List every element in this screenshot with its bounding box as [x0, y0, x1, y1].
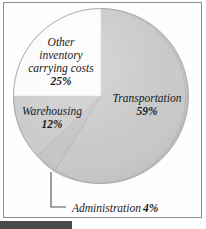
slice-label-other-line1: Other — [48, 36, 75, 48]
slice-value-administration: 4% — [143, 202, 158, 214]
slice-label-administration: Administration4% — [72, 202, 192, 215]
slice-label-warehousing-name: Warehousing — [22, 105, 82, 117]
slice-label-other-inventory-carrying-costs: Other inventory carrying costs 25% — [16, 36, 106, 88]
slice-label-warehousing: Warehousing 12% — [6, 105, 98, 131]
figure-bottom-bar — [0, 221, 72, 229]
slice-label-transportation: Transportation 59% — [103, 92, 191, 118]
administration-leader-line — [51, 172, 66, 207]
chart-plot-area: Other inventory carrying costs 25% Trans… — [0, 0, 206, 229]
frame-right-margin — [202, 2, 206, 221]
slice-label-transportation-name: Transportation — [112, 92, 181, 104]
slice-label-other-line3: carrying costs — [28, 62, 93, 74]
slice-label-administration-name: Administration — [72, 202, 141, 214]
slice-value-warehousing: 12% — [41, 118, 62, 130]
slice-value-other: 25% — [50, 75, 71, 87]
slice-value-transportation: 59% — [136, 105, 157, 117]
pie-chart-figure: Other inventory carrying costs 25% Trans… — [0, 0, 206, 229]
slice-label-other-line2: inventory — [39, 49, 82, 61]
